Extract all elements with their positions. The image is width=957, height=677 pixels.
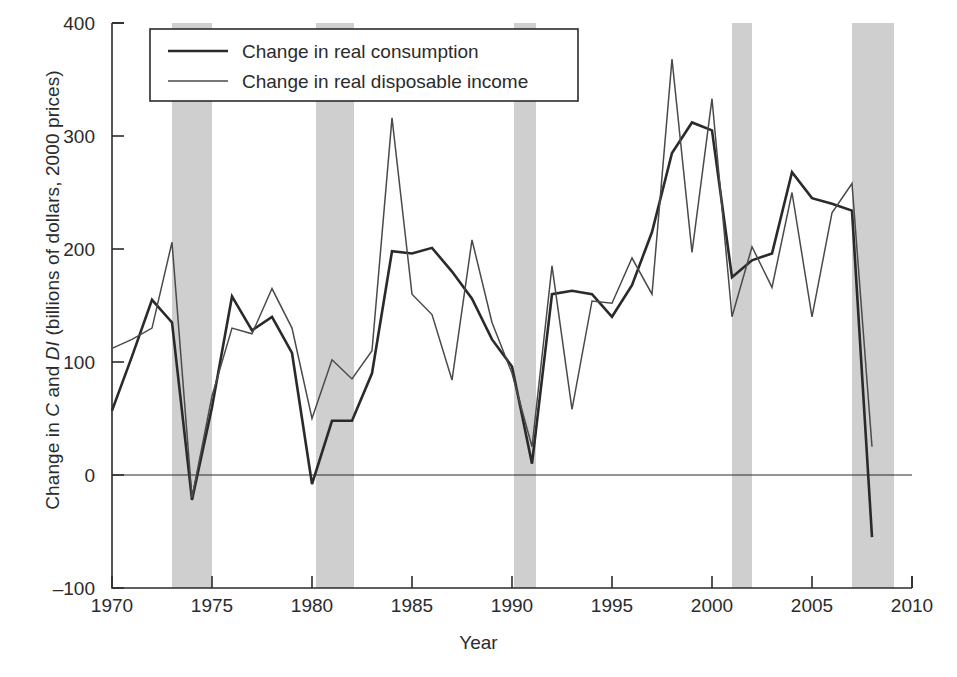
x-tick-label-1990: 1990 xyxy=(491,595,533,616)
y-axis-title-italic-c: C xyxy=(42,403,63,417)
y-tick-label-0: 0 xyxy=(84,465,95,486)
x-tick-label-1985: 1985 xyxy=(391,595,433,616)
chart-axes xyxy=(112,23,912,588)
x-tick-label-2010: 2010 xyxy=(891,595,933,616)
chart-figure: –100010020030040019701975198019851990199… xyxy=(0,0,957,677)
data-series xyxy=(112,59,872,537)
y-axis-title-post: (billions of dollars, 2000 prices) xyxy=(42,70,63,341)
y-axis-title-mid: and xyxy=(42,360,63,403)
x-tick-label-1970: 1970 xyxy=(91,595,133,616)
x-tick-label-1975: 1975 xyxy=(191,595,233,616)
line-chart-canvas: –100010020030040019701975198019851990199… xyxy=(0,0,957,677)
axis-spines xyxy=(112,23,912,588)
x-tick-label-2005: 2005 xyxy=(791,595,833,616)
chart-legend: Change in real consumptionChange in real… xyxy=(150,29,578,101)
recession-band-1 xyxy=(316,23,354,588)
y-axis-title-pre: Change in xyxy=(42,417,63,510)
recession-band-0 xyxy=(172,23,212,588)
y-axis-title-italic-di: DI xyxy=(42,341,63,360)
x-tick-label-1980: 1980 xyxy=(291,595,333,616)
legend-label-0: Change in real consumption xyxy=(242,41,479,62)
x-tick-label-2000: 2000 xyxy=(691,595,733,616)
x-tick-label-1995: 1995 xyxy=(591,595,633,616)
x-axis-title: Year xyxy=(0,632,957,654)
series-line-1 xyxy=(112,59,872,497)
recession-band-2 xyxy=(514,23,536,588)
y-axis-title: Change in C and DI (billions of dollars,… xyxy=(42,0,82,600)
legend-label-1: Change in real disposable income xyxy=(242,71,528,92)
